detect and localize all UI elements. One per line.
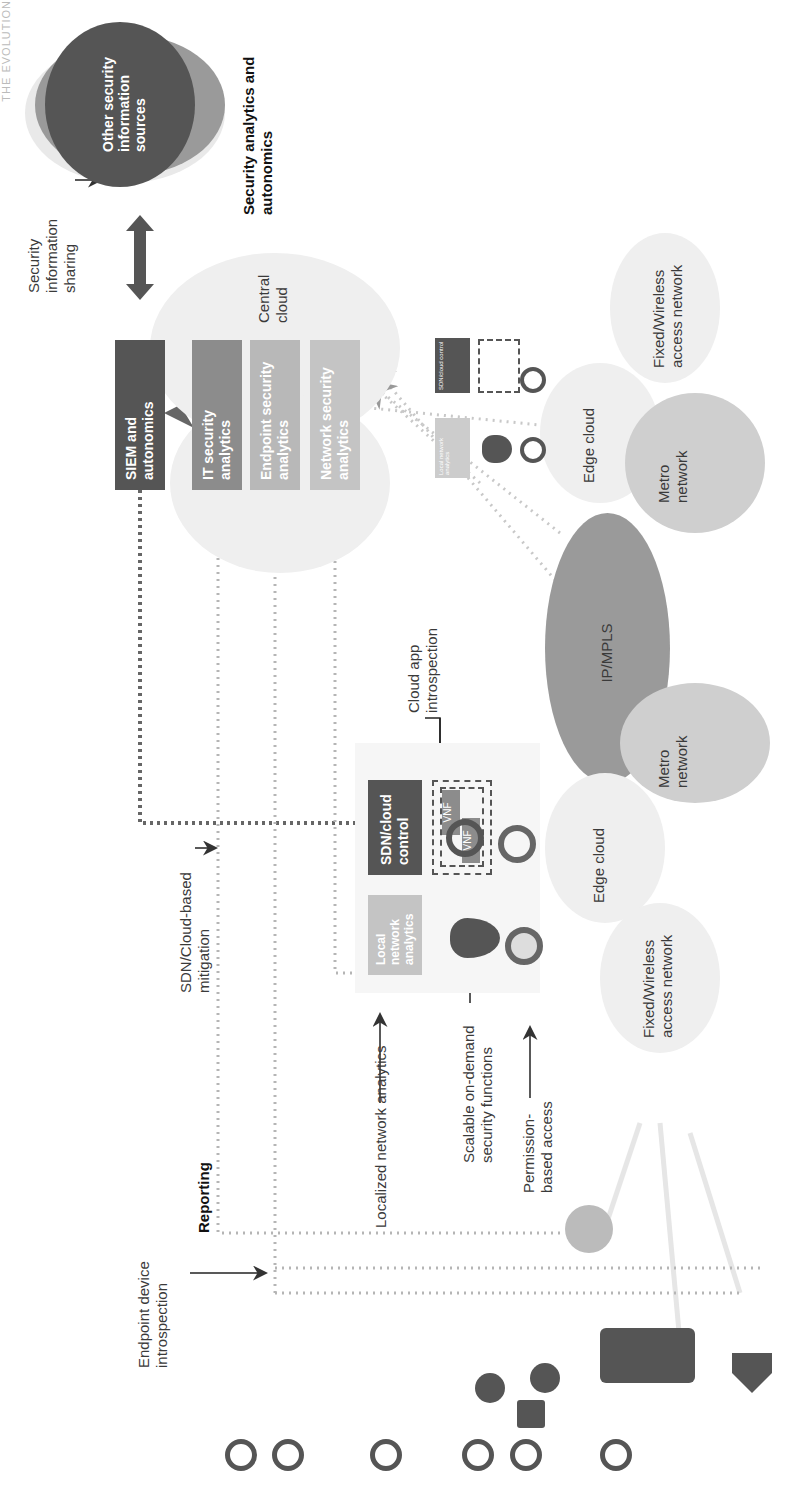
sdn-mitigation-label: SDN/Cloud-based mitigation	[177, 843, 213, 993]
mini-sdn-control: SDN/cloud control	[435, 338, 470, 393]
vnf-magnifier-icon	[446, 819, 484, 857]
mini-magnifier-icon-2	[520, 367, 546, 393]
ip-mpls-label: IP/MPLS	[598, 613, 616, 693]
metro-bottom-label: Metro network	[655, 708, 691, 788]
reporting-title: Reporting	[195, 1143, 213, 1233]
endpoint-camera-2-icon	[510, 1439, 542, 1471]
metro-top-label: Metro network	[655, 423, 691, 503]
metro-bottom	[620, 683, 770, 803]
scalable-functions-label: Scalable on-demand security functions	[460, 1003, 496, 1163]
app-magnifier-icon	[498, 825, 536, 863]
network-security-label: Network security analytics	[318, 350, 352, 480]
other-sources-node: Other security information sources	[45, 22, 195, 187]
local-analytics-box: Local network analytics	[368, 895, 422, 975]
endpoint-camera-3-icon	[600, 1439, 632, 1471]
mini-shield-icon	[482, 435, 512, 463]
mini-vnf-group	[478, 339, 520, 393]
siem-label: SIEM and autonomics	[123, 350, 157, 480]
sdn-control-box: SDN/cloud control	[368, 780, 422, 875]
access-bottom-label: Fixed/Wireless access network	[640, 908, 676, 1038]
mini-magnifier-icon	[520, 437, 546, 463]
metro-top	[625, 393, 765, 533]
local-analytics-label: Local network analytics	[374, 905, 416, 965]
central-cloud-label: Central cloud	[255, 243, 291, 323]
endpoint-person-1-icon	[225, 1439, 257, 1471]
sharing-label: Security information sharing	[25, 193, 79, 293]
cloud-app-introspection-label: Cloud app introspection	[405, 593, 441, 713]
edge-cloud-bottom-label: Edge cloud	[590, 803, 608, 903]
network-security-box: Network security analytics	[310, 340, 360, 490]
it-security-box: IT security analytics	[192, 340, 242, 490]
permission-access-label: Permission-based access	[520, 1073, 556, 1193]
endpoint-security-label: Endpoint security analytics	[258, 350, 292, 480]
endpoint-introspection-label: Endpoint device introspection	[135, 1258, 171, 1368]
edge-cloud-top-label: Edge cloud	[580, 383, 598, 483]
door-sensor-icon	[517, 1400, 545, 1428]
diagram-canvas: THE EVOLUTION	[0, 0, 806, 1493]
enterprise-building-icon	[600, 1328, 695, 1383]
access-top-label: Fixed/Wireless access network	[650, 238, 686, 368]
endpoint-person-2-icon	[272, 1439, 304, 1471]
siem-box: SIEM and autonomics	[115, 340, 165, 490]
access-spokes	[600, 1123, 740, 1343]
localized-analytics-label: Localized network analytics	[372, 1018, 390, 1228]
mini-local-analytics: Local network analytics	[435, 418, 470, 478]
security-analytics-title: Security analytics and autonomics	[240, 55, 276, 215]
leaf-sensor-icon	[530, 1363, 560, 1393]
endpoint-camera-1-icon	[462, 1439, 494, 1471]
permission-magnifier-icon	[505, 927, 543, 965]
endpoint-security-box: Endpoint security analytics	[250, 340, 300, 490]
endpoint-mobile-icon	[370, 1439, 402, 1471]
it-security-label: IT security analytics	[200, 350, 234, 480]
sensor-icon	[475, 1373, 505, 1403]
other-sources-label: Other security information sources	[100, 52, 148, 152]
sharing-double-arrow	[126, 215, 154, 300]
vehicle-device-icon	[565, 1205, 613, 1253]
sdn-control-label: SDN/cloud control	[378, 790, 412, 865]
